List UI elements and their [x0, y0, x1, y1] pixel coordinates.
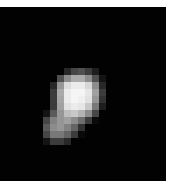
- blob-pixel: [85, 103, 92, 110]
- blob-pixel: [92, 96, 99, 103]
- blob-pixel: [78, 75, 85, 82]
- blob-pixel: [99, 89, 106, 96]
- blob-pixel: [71, 96, 78, 103]
- blob-pixel: [57, 75, 64, 82]
- blob-pixel: [64, 103, 71, 110]
- blob-pixel: [71, 89, 78, 96]
- blob-pixel: [57, 82, 64, 89]
- blob-pixel: [71, 124, 78, 131]
- image-canvas: [0, 7, 166, 181]
- blob-pixel: [43, 110, 50, 117]
- blob-pixel: [78, 96, 85, 103]
- blob-pixel: [92, 82, 99, 89]
- blob-pixel: [50, 82, 57, 89]
- blob-pixel: [78, 103, 85, 110]
- blob-pixel: [92, 103, 99, 110]
- blob-pixel: [64, 68, 71, 75]
- blob-pixel: [50, 117, 57, 124]
- blob-pixel: [92, 75, 99, 82]
- blob-pixel: [78, 124, 85, 131]
- blob-pixel: [85, 75, 92, 82]
- blob-pixel: [78, 82, 85, 89]
- blob-pixel: [50, 89, 57, 96]
- blob-pixel: [43, 131, 50, 138]
- blob-pixel: [85, 110, 92, 117]
- blob-pixel: [85, 96, 92, 103]
- blob-pixel: [71, 103, 78, 110]
- blob-pixel: [50, 103, 57, 110]
- blob-pixel: [71, 117, 78, 124]
- blob-pixel: [50, 124, 57, 131]
- blob-pixel: [71, 82, 78, 89]
- blob-pixel: [92, 110, 99, 117]
- blob-pixel: [64, 89, 71, 96]
- blob-pixel: [57, 138, 64, 145]
- blob-pixel: [71, 131, 78, 138]
- blob-pixel: [43, 138, 50, 145]
- blob-pixel: [50, 138, 57, 145]
- blob-pixel: [78, 68, 85, 75]
- blob-pixel: [85, 117, 92, 124]
- blob-pixel: [92, 89, 99, 96]
- blob-pixel: [64, 117, 71, 124]
- blob-pixel: [99, 103, 106, 110]
- blob-pixel: [78, 110, 85, 117]
- blob-pixel: [78, 131, 85, 138]
- blob-pixel: [50, 131, 57, 138]
- blob-pixel: [85, 89, 92, 96]
- blob-pixel: [43, 124, 50, 131]
- blob-pixel: [99, 96, 106, 103]
- blob-pixel: [64, 75, 71, 82]
- blob-pixel: [78, 117, 85, 124]
- blob-pixel: [57, 89, 64, 96]
- blob-pixel: [92, 117, 99, 124]
- blob-pixel: [57, 110, 64, 117]
- blob-pixel: [64, 124, 71, 131]
- blob-pixel: [99, 82, 106, 89]
- blob-pixel: [64, 138, 71, 145]
- blob-pixel: [85, 82, 92, 89]
- blob-pixel: [71, 75, 78, 82]
- blob-pixel: [64, 110, 71, 117]
- blob-pixel: [71, 68, 78, 75]
- blob-pixel: [85, 68, 92, 75]
- blob-pixel: [99, 75, 106, 82]
- blob-pixel: [57, 96, 64, 103]
- blob-pixel: [43, 117, 50, 124]
- blob-pixel: [64, 96, 71, 103]
- blob-pixel: [57, 103, 64, 110]
- blob-pixel: [64, 131, 71, 138]
- blob-pixel: [71, 110, 78, 117]
- blob-pixel: [64, 82, 71, 89]
- blob-pixel: [92, 68, 99, 75]
- blob-pixel: [50, 110, 57, 117]
- blob-pixel: [78, 89, 85, 96]
- blob-pixel: [57, 131, 64, 138]
- blob-pixel: [57, 124, 64, 131]
- blob-pixel: [57, 117, 64, 124]
- blob-pixel: [50, 96, 57, 103]
